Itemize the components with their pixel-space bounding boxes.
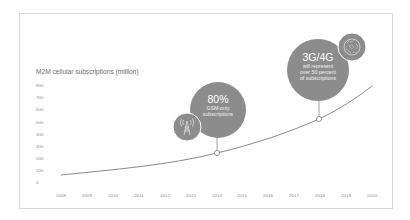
marker-2014: [214, 150, 219, 155]
annotation-2018-value: 3G/4G: [300, 52, 336, 63]
annotation-2014-line: subscriptions: [203, 111, 233, 117]
annotation-2018: 3G/4G will represent over 50 percent of …: [300, 52, 336, 81]
annotation-2014: 80% GSM-only subscriptions: [203, 94, 233, 117]
globe-bubble: [338, 33, 366, 61]
annotation-2018-line: of subscriptions: [300, 75, 336, 81]
annotation-2014-value: 80%: [203, 94, 233, 105]
marker-2018: [316, 116, 321, 121]
